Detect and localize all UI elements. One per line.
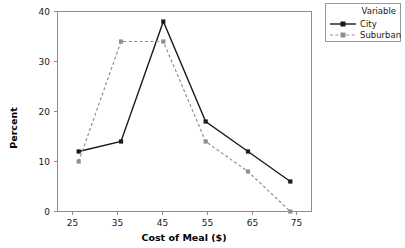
y-tick-label-20: 20 (39, 107, 51, 117)
line-chart: 40 30 20 10 0 Percent 25 35 45 55 65 75 … (0, 0, 405, 248)
data-point-city-35[interactable] (119, 139, 123, 143)
series-suburban (77, 39, 293, 213)
x-tick-label-45: 45 (157, 218, 168, 228)
data-point-suburban-55[interactable] (204, 139, 208, 143)
data-point-city-25[interactable] (77, 149, 81, 153)
data-point-city-45[interactable] (161, 19, 165, 23)
x-tick-label-75: 75 (291, 218, 302, 228)
data-point-suburban-65[interactable] (246, 169, 250, 173)
data-point-suburban-35[interactable] (119, 39, 123, 43)
x-tick-label-25: 25 (67, 218, 78, 228)
data-point-suburban-45[interactable] (161, 39, 165, 43)
data-point-city-75[interactable] (288, 179, 292, 183)
data-point-suburban-75[interactable] (288, 209, 292, 213)
legend-title: Variable (362, 6, 396, 16)
data-point-city-65[interactable] (246, 149, 250, 153)
legend-swatch-suburban-marker (341, 33, 346, 38)
data-point-city-55[interactable] (204, 119, 208, 123)
y-tick-label-40: 40 (39, 7, 51, 17)
series-line-suburban (79, 42, 291, 212)
legend-label-suburban: Suburban (360, 30, 401, 40)
y-axis-title: Percent (8, 107, 19, 149)
x-tick-label-35: 35 (112, 218, 123, 228)
legend: Variable City Suburban (326, 4, 402, 42)
legend-swatch-city-marker (341, 22, 346, 27)
y-axis: 40 30 20 10 0 (39, 7, 58, 217)
series-layer (77, 19, 293, 213)
data-point-suburban-25[interactable] (77, 159, 81, 163)
legend-label-city: City (360, 19, 377, 29)
plot-frame (58, 12, 312, 212)
x-axis-title: Cost of Meal ($) (141, 232, 226, 243)
chart-container: 40 30 20 10 0 Percent 25 35 45 55 65 75 … (0, 0, 405, 248)
series-city (77, 19, 293, 183)
x-tick-label-55: 55 (202, 218, 213, 228)
series-line-city (79, 22, 291, 182)
y-tick-label-0: 0 (44, 207, 50, 217)
x-axis: 25 35 45 55 65 75 (67, 212, 302, 229)
y-tick-label-10: 10 (39, 157, 51, 167)
x-tick-label-65: 65 (247, 218, 258, 228)
y-tick-label-30: 30 (39, 57, 51, 67)
